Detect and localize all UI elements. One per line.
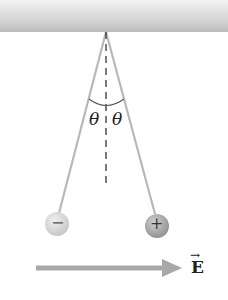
ceiling — [0, 0, 228, 32]
negative-charge-sign: − — [51, 213, 64, 232]
field-arrow-head — [162, 259, 182, 277]
positive-charge-sign: + — [150, 214, 163, 233]
theta-right-label: θ — [112, 109, 122, 129]
field-label: E — [191, 257, 204, 277]
theta-left-label: θ — [89, 109, 99, 129]
